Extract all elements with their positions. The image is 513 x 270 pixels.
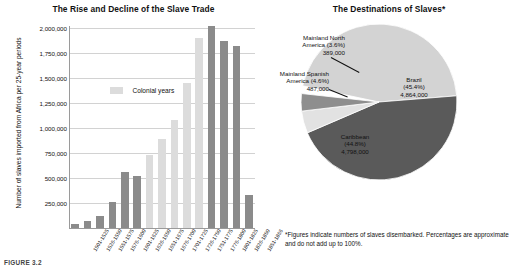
bar — [96, 216, 103, 228]
y-tick-label: 1,500,000 — [39, 75, 67, 82]
pie-chart-panel: The Destinations of Slaves* Brazil (45.4… — [265, 0, 513, 270]
y-tick-label: 750,000 — [45, 150, 67, 157]
bar-chart-plot-area — [69, 26, 255, 228]
bar — [158, 139, 165, 228]
bar-chart-legend: Colonial years — [110, 81, 174, 99]
bar-chart-panel: The Rise and Decline of the Slave Trade … — [0, 0, 265, 270]
bar-chart-x-tick-labels: 1501-15251526-15501551-15751576-16001601… — [69, 228, 259, 270]
bar — [121, 172, 128, 228]
bar — [233, 46, 240, 228]
legend-label-colonial: Colonial years — [132, 87, 174, 94]
bar-chart-y-tick-labels: 250,000500,000750,0001,000,0001,250,0001… — [24, 26, 67, 228]
bar — [133, 176, 140, 228]
y-axis-line — [69, 26, 70, 229]
pie-label-caribbean: Caribbean (44.8%) 4,798,000 — [325, 133, 385, 155]
bar-chart-title: The Rise and Decline of the Slave Trade — [6, 4, 261, 14]
figure-caption: FIGURE 3.2 — [4, 259, 42, 266]
y-tick-label: 500,000 — [45, 175, 67, 182]
pie-chart-footnote: *Figures indicate numbers of slaves dise… — [285, 231, 513, 248]
pie-chart-title: The Destinations of Slaves* — [273, 4, 505, 14]
legend-swatch-colonial — [110, 87, 123, 94]
y-tick-label: 2,000,000 — [39, 25, 67, 32]
pie-label-mainland-north-america: Mainland North America (3.6%) 389,000 — [277, 34, 345, 56]
bar — [245, 195, 252, 228]
bar — [208, 26, 215, 228]
bar — [171, 120, 178, 228]
bar — [183, 83, 190, 228]
pie-label-mainland-spanish-america: Mainland Spanish America (4.6%) 487,000 — [257, 70, 329, 92]
bar — [195, 38, 202, 228]
bar — [220, 41, 227, 228]
bar — [109, 202, 116, 228]
pie-label-brazil: Brazil (45.4%) 4,864,000 — [383, 76, 445, 98]
y-tick-label: 1,250,000 — [39, 100, 67, 107]
y-axis-label-text: Number of slaves imported from Africa pe… — [15, 34, 23, 212]
bar — [84, 221, 91, 228]
gridline — [69, 28, 255, 29]
y-tick-label: 250,000 — [45, 200, 67, 207]
bar-chart-y-axis-label: Number of slaves imported from Africa pe… — [2, 34, 16, 214]
y-tick-label: 1,750,000 — [39, 50, 67, 57]
bar — [146, 155, 153, 228]
y-tick-label: 1,000,000 — [39, 125, 67, 132]
figure-root: The Rise and Decline of the Slave Trade … — [0, 0, 513, 270]
